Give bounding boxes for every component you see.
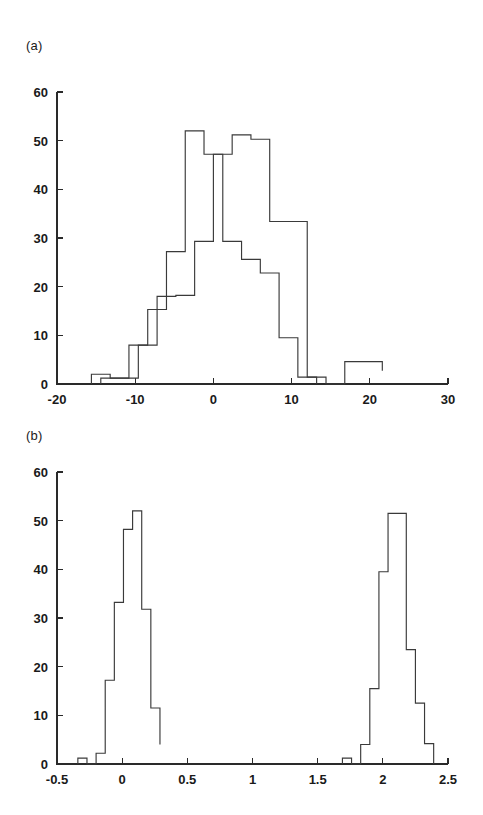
panel-b: (b) 0102030405060-0.500.511.522.5	[0, 405, 483, 815]
histogram-step-outline	[91, 131, 316, 384]
y-tick-label: 20	[34, 660, 48, 675]
y-tick-label: 60	[34, 85, 48, 100]
y-tick-label: 20	[34, 280, 48, 295]
x-tick-label: 2	[379, 772, 386, 787]
panel-a: (a) 0102030405060-20-100102030	[0, 0, 483, 410]
histogram-step-outline	[78, 511, 160, 764]
y-tick-label: 50	[34, 514, 48, 529]
y-tick-label: 0	[41, 757, 48, 772]
y-tick-label: 40	[34, 182, 48, 197]
x-tick-label: 1.5	[309, 772, 327, 787]
panel-a-plot: 0102030405060-20-100102030	[0, 0, 483, 410]
y-tick-label: 50	[34, 134, 48, 149]
y-tick-label: 0	[41, 377, 48, 392]
figure-container: (a) 0102030405060-20-100102030 (b) 01020…	[0, 0, 483, 815]
x-tick-label: 1	[249, 772, 256, 787]
panel-b-plot: 0102030405060-0.500.511.522.5	[0, 405, 483, 815]
y-tick-label: 10	[34, 708, 48, 723]
x-tick-label: 0.5	[178, 772, 196, 787]
y-tick-label: 10	[34, 328, 48, 343]
y-tick-label: 30	[34, 611, 48, 626]
x-tick-label: -0.5	[46, 772, 68, 787]
x-tick-label: 2.5	[439, 772, 457, 787]
y-tick-label: 60	[34, 465, 48, 480]
y-tick-label: 40	[34, 562, 48, 577]
x-tick-label: 0	[119, 772, 126, 787]
histogram-step-outline	[342, 513, 433, 764]
y-tick-label: 30	[34, 231, 48, 246]
